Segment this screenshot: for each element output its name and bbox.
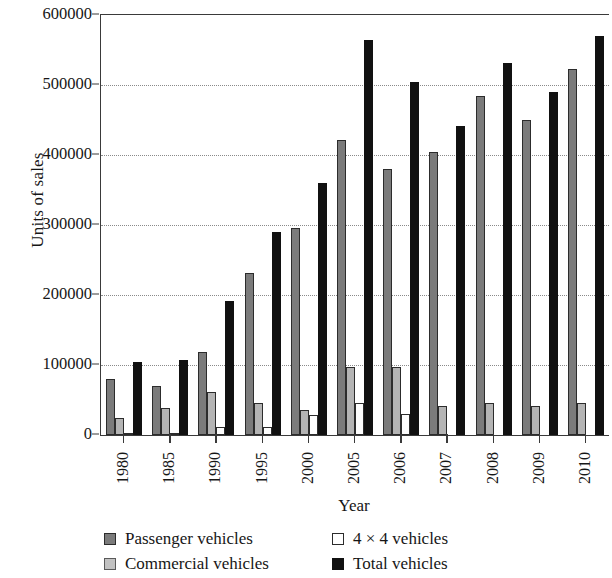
x-tick-mark <box>215 434 216 443</box>
bar <box>337 140 346 435</box>
x-tick-cell <box>516 434 562 446</box>
bar <box>198 352 207 435</box>
y-tick-label: 400000 <box>6 146 92 163</box>
y-tick-label: 100000 <box>6 356 92 373</box>
bar <box>485 403 494 435</box>
legend-item[interactable]: Total vehicles <box>332 554 544 574</box>
x-tick-mark <box>262 434 263 443</box>
bar <box>318 183 327 435</box>
x-tick-cell <box>146 434 192 446</box>
x-tick-label-cell: 1985 <box>146 446 192 498</box>
x-tick-mark <box>308 434 309 443</box>
bar <box>291 228 300 435</box>
bar-group <box>193 15 239 435</box>
bar-chart-figure: Units of sales 0100000200000300000400000… <box>0 0 612 578</box>
bar-group <box>378 15 424 435</box>
bar <box>456 126 465 435</box>
bar <box>355 403 364 435</box>
x-tick-label-cell: 2000 <box>285 446 331 498</box>
x-tick-label-cell: 1990 <box>192 446 238 498</box>
y-tick-mark <box>92 294 99 295</box>
x-tick-label: 1995 <box>253 452 271 484</box>
bar <box>429 152 438 435</box>
legend-swatch-icon <box>332 533 344 545</box>
x-tick-mark <box>123 434 124 443</box>
x-tick-label-cell: 2009 <box>516 446 562 498</box>
x-tick-label: 2007 <box>437 452 455 484</box>
bar <box>383 169 392 435</box>
x-tick-cell <box>377 434 423 446</box>
bar <box>254 403 263 435</box>
x-tick-label-cell: 2007 <box>423 446 469 498</box>
legend-swatch-icon <box>104 533 116 545</box>
y-tick-mark <box>92 224 99 225</box>
legend-item[interactable]: 4 × 4 vehicles <box>332 529 544 549</box>
bar <box>392 367 401 435</box>
x-tick-label: 2010 <box>576 452 594 484</box>
x-tick-cell <box>562 434 608 446</box>
x-tick-label: 2006 <box>391 452 409 484</box>
y-tick-mark <box>92 84 99 85</box>
bar <box>364 40 373 436</box>
x-tick-cell <box>285 434 331 446</box>
bar <box>225 301 234 435</box>
bar <box>522 120 531 435</box>
x-tick-label: 1980 <box>114 452 132 484</box>
legend-item[interactable]: Commercial vehicles <box>104 554 332 574</box>
x-tick-mark <box>169 434 170 443</box>
bar-group <box>240 15 286 435</box>
x-axis-tick-marks <box>100 434 608 446</box>
bar <box>438 406 447 435</box>
x-tick-label: 2008 <box>484 452 502 484</box>
bar-group <box>147 15 193 435</box>
y-tick-mark <box>92 434 99 435</box>
legend-label: Passenger vehicles <box>125 529 253 549</box>
y-tick-label: 300000 <box>6 216 92 233</box>
bar-groups <box>101 15 609 435</box>
bar-group <box>517 15 563 435</box>
x-tick-cell <box>192 434 238 446</box>
x-tick-mark <box>539 434 540 443</box>
bar-group <box>101 15 147 435</box>
x-tick-label-cell: 1980 <box>100 446 146 498</box>
x-tick-mark <box>354 434 355 443</box>
legend-item[interactable]: Passenger vehicles <box>104 529 332 549</box>
y-axis-tick-labels: 0100000200000300000400000500000600000 <box>0 0 92 445</box>
bar <box>401 414 410 435</box>
bar-group <box>563 15 609 435</box>
x-axis-label: Year <box>100 496 608 516</box>
bar <box>309 415 318 435</box>
bar-group <box>471 15 517 435</box>
x-tick-label: 1985 <box>160 452 178 484</box>
x-tick-label-cell: 2006 <box>377 446 423 498</box>
bar <box>133 362 142 436</box>
bar <box>245 273 254 435</box>
bar <box>106 379 115 435</box>
plot-area <box>100 14 609 436</box>
x-tick-cell <box>331 434 377 446</box>
x-tick-label-cell: 2005 <box>331 446 377 498</box>
x-tick-mark <box>585 434 586 443</box>
bar <box>161 408 170 435</box>
x-tick-mark <box>493 434 494 443</box>
x-tick-label: 2000 <box>299 452 317 484</box>
bar <box>549 92 558 435</box>
bar <box>300 410 309 435</box>
x-tick-label-cell: 2008 <box>470 446 516 498</box>
y-tick-label: 600000 <box>6 6 92 23</box>
x-tick-cell <box>470 434 516 446</box>
x-axis-tick-labels: 1980198519901995200020052006200720082009… <box>100 446 608 498</box>
y-tick-mark <box>92 154 99 155</box>
bar <box>207 392 216 435</box>
x-tick-label-cell: 1995 <box>239 446 285 498</box>
bar <box>115 418 124 436</box>
legend-label: Commercial vehicles <box>125 554 269 574</box>
bar <box>531 406 540 435</box>
bar <box>595 36 604 435</box>
bar <box>577 403 586 435</box>
bar-group <box>286 15 332 435</box>
y-tick-mark <box>92 364 99 365</box>
legend-label: Total vehicles <box>353 554 448 574</box>
bar-group <box>332 15 378 435</box>
x-tick-label: 2009 <box>530 452 548 484</box>
